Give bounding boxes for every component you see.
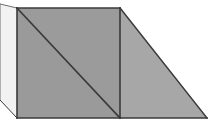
left-light-face: Left light quadrilateral face [0, 4, 17, 118]
figure-canvas: Left light quadrilateral faceUpper-right… [0, 0, 213, 128]
geometric-shape-figure: Left light quadrilateral faceUpper-right… [0, 0, 213, 128]
